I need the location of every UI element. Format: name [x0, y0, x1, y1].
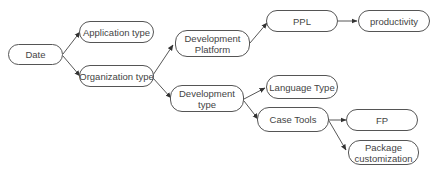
node-case-tools: Case Tools [257, 107, 329, 132]
node-development-type-line1: Development [179, 88, 235, 99]
edge-case-tools-package-customization [329, 121, 346, 150]
edge-date-application-type [63, 32, 80, 54]
node-application-type-label: Application type [83, 27, 150, 38]
node-ppl: PPL [266, 10, 338, 32]
node-fp: FP [346, 109, 418, 131]
node-package-customization-line1: Package [365, 142, 402, 153]
node-development-platform-line1: Development [185, 33, 241, 44]
edge-organization-development-platform [153, 45, 173, 75]
node-development-platform: Development Platform [175, 30, 250, 57]
node-organization-type-label: Organization type [79, 71, 153, 82]
tree-diagram: Date Application type Organization type … [0, 0, 435, 178]
node-case-tools-label: Case Tools [270, 114, 317, 125]
node-development-type-line2: type [198, 99, 216, 110]
node-productivity-label: productivity [370, 16, 418, 27]
node-fp-label: FP [376, 115, 388, 126]
node-language-type-label: Language Type [269, 82, 334, 93]
node-development-platform-line2: Platform [195, 44, 230, 55]
edge-development-type-language-type [244, 88, 265, 99]
node-date: Date [8, 44, 63, 65]
node-productivity: productivity [358, 10, 430, 32]
edge-date-organization-type [63, 56, 80, 76]
node-language-type: Language Type [266, 75, 338, 99]
node-ppl-label: PPL [293, 16, 311, 27]
node-package-customization: Package customization [348, 140, 419, 165]
node-organization-type: Organization type [79, 65, 154, 87]
edge-development-platform-ppl [250, 23, 267, 43]
edge-development-type-case-tools [244, 101, 258, 119]
node-date-label: Date [25, 49, 45, 60]
node-application-type: Application type [79, 21, 154, 43]
node-package-customization-line2: customization [354, 153, 412, 164]
edge-organization-development-type [153, 78, 171, 98]
node-development-type: Development type [170, 85, 244, 112]
